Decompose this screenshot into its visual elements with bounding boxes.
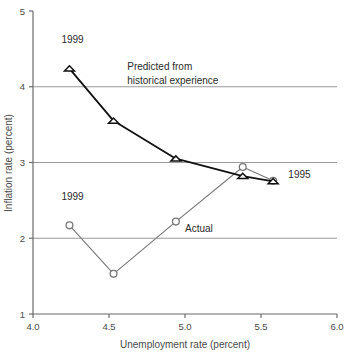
- series-line: [69, 167, 273, 274]
- gridlines: [33, 87, 337, 239]
- data-point-marker-circle: [172, 218, 179, 225]
- y-axis-title: Inflation rate (percent): [3, 114, 14, 212]
- data-point-marker-triangle: [238, 173, 248, 178]
- data-point-marker-circle: [239, 164, 246, 171]
- x-axis-tick-label: 4.5: [102, 321, 115, 332]
- series-actual: [66, 164, 276, 278]
- y-axis-tick-label: 5: [20, 6, 25, 17]
- x-axis-title: Unemployment rate (percent): [120, 339, 250, 350]
- year-1995-label: 1995: [288, 169, 311, 180]
- chart-annotations: 1999Predicted fromhistorical experience1…: [61, 34, 311, 234]
- chart-canvas: 4.04.55.05.56.0 12345 1999Predicted from…: [0, 0, 354, 356]
- y-axis-tick-labels: 12345: [20, 6, 25, 320]
- x-axis-tick-labels: 4.04.55.05.56.0: [26, 321, 343, 332]
- x-axis-tick-label: 5.0: [178, 321, 191, 332]
- predicted-series-label-line2: historical experience: [127, 75, 219, 86]
- predicted-1999-label: 1999: [61, 34, 84, 45]
- data-point-marker-triangle: [109, 118, 119, 123]
- predicted-series-label-line1: Predicted from: [127, 61, 192, 72]
- y-axis-tick-label: 3: [20, 157, 25, 168]
- x-axis-tick-label: 5.5: [254, 321, 267, 332]
- y-axis-tick-label: 1: [20, 309, 25, 320]
- x-axis-tick-label: 6.0: [330, 321, 343, 332]
- data-point-marker-circle: [66, 222, 73, 229]
- data-point-marker-triangle: [64, 66, 74, 71]
- y-axis-tick-label: 4: [20, 81, 25, 92]
- actual-series-label: Actual: [185, 223, 213, 234]
- x-axis-tick-label: 4.0: [26, 321, 39, 332]
- actual-1999-label: 1999: [61, 191, 84, 202]
- phillips-curve-chart: 4.04.55.05.56.0 12345 1999Predicted from…: [0, 0, 354, 356]
- data-point-marker-circle: [110, 270, 117, 277]
- y-axis-tick-label: 2: [20, 233, 25, 244]
